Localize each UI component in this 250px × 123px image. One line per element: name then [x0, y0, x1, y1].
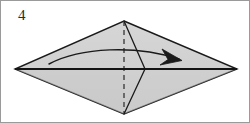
paper-kite-polygon: [15, 21, 237, 114]
origami-diagram-canvas: [1, 1, 250, 123]
origami-step-figure: 4: [0, 0, 250, 123]
step-number-label: 4: [18, 8, 26, 23]
paper-facet-shade-lower-left: [15, 69, 124, 114]
